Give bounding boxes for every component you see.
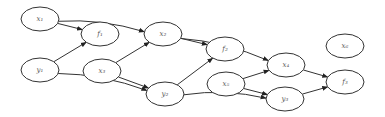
edge-x5-y3 xyxy=(244,88,268,94)
node-label: f₂ xyxy=(221,45,228,53)
node-label: f₃ xyxy=(341,78,348,86)
node-label: x₃ xyxy=(99,67,106,75)
node-label: x₄ xyxy=(283,61,290,69)
node-label: f₁ xyxy=(96,30,103,38)
node-x1: x₁ xyxy=(21,7,59,31)
node-label: x₆ xyxy=(342,42,349,50)
node-x2: x₂ xyxy=(144,22,182,46)
node-y3: y₃ xyxy=(266,87,304,111)
node-label: x₂ xyxy=(160,30,167,38)
edge-x4-f3 xyxy=(303,70,327,77)
node-label: x₅ xyxy=(223,80,230,88)
graph-canvas: x₁f₁y₁x₂x₃y₂f₂x₄x₅y₃f₃x₆ xyxy=(0,0,385,117)
edge-x5-x4 xyxy=(243,70,269,78)
node-label: x₁ xyxy=(37,15,44,23)
node-label: y₂ xyxy=(161,90,169,98)
node-y2: y₂ xyxy=(146,82,184,106)
node-label: y₁ xyxy=(36,66,44,74)
node-x6: x₆ xyxy=(326,34,364,58)
edge-x1-f1 xyxy=(58,23,83,29)
edge-x3-x2 xyxy=(116,42,150,62)
node-f1: f₁ xyxy=(81,22,119,46)
node-x3: x₃ xyxy=(83,59,121,83)
edge-y3-f3 xyxy=(302,87,327,94)
node-label: y₃ xyxy=(281,95,289,103)
node-f2: f₂ xyxy=(206,37,244,61)
node-f3: f₃ xyxy=(326,70,364,94)
node-y1: y₁ xyxy=(21,58,59,82)
node-x4: x₄ xyxy=(267,53,305,77)
node-x5: x₅ xyxy=(207,72,245,96)
edge-y1-f1 xyxy=(54,42,86,61)
